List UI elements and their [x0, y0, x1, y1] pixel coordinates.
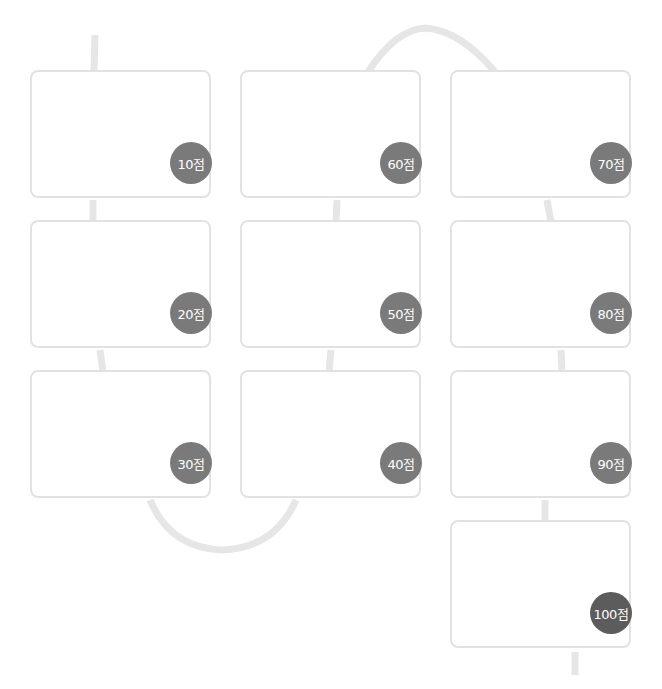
score-card-80: 80점 [450, 220, 631, 348]
score-card-20: 20점 [30, 220, 211, 348]
score-badge-final: 100점 [590, 592, 632, 634]
score-card-100: 100점 [450, 520, 631, 648]
score-badge: 10점 [170, 142, 212, 184]
score-badge: 60점 [380, 142, 422, 184]
score-card-60: 60점 [240, 70, 421, 198]
score-badge: 70점 [590, 142, 632, 184]
score-badge: 20점 [170, 292, 212, 334]
score-card-50: 50점 [240, 220, 421, 348]
score-badge: 40점 [380, 442, 422, 484]
score-card-70: 70점 [450, 70, 631, 198]
score-card-30: 30점 [30, 370, 211, 498]
score-card-40: 40점 [240, 370, 421, 498]
score-badge: 30점 [170, 442, 212, 484]
score-badge: 80점 [590, 292, 632, 334]
score-badge: 50점 [380, 292, 422, 334]
score-card-90: 90점 [450, 370, 631, 498]
score-card-10: 10점 [30, 70, 211, 198]
score-badge: 90점 [590, 442, 632, 484]
